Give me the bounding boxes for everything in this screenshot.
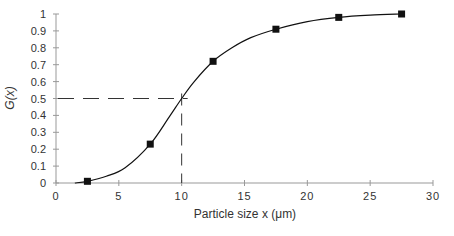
- y-tick-label: 0.9: [31, 25, 46, 37]
- x-tick-label: 0: [52, 190, 59, 202]
- y-axis-title: G(x): [3, 86, 17, 109]
- data-point-marker: [147, 141, 154, 148]
- plot-area: 05101520253000.10.20.30.40.50.60.70.80.9…: [31, 8, 440, 202]
- y-tick-label: 0.1: [31, 160, 46, 172]
- x-tick-label: 15: [237, 190, 251, 202]
- data-point-marker: [210, 58, 217, 65]
- y-tick-label: 0.6: [31, 76, 46, 88]
- cumulative-distribution-chart: 05101520253000.10.20.30.40.50.60.70.80.9…: [0, 0, 454, 236]
- x-tick-label: 20: [300, 190, 314, 202]
- y-tick-label: 0: [40, 177, 46, 189]
- y-tick-label: 1: [40, 8, 46, 20]
- x-axis-title: Particle size x (μm): [194, 207, 296, 221]
- data-point-marker: [84, 178, 91, 185]
- x-tick-label: 30: [426, 190, 440, 202]
- data-point-marker: [398, 11, 405, 18]
- y-tick-label: 0.8: [31, 42, 46, 54]
- data-point-marker: [335, 14, 342, 21]
- x-tick-label: 10: [175, 190, 189, 202]
- x-tick-label: 5: [115, 190, 122, 202]
- y-tick-label: 0.5: [31, 93, 46, 105]
- data-point-marker: [272, 26, 279, 33]
- y-tick-label: 0.3: [31, 126, 46, 138]
- y-tick-label: 0.4: [31, 109, 46, 121]
- y-tick-label: 0.2: [31, 143, 46, 155]
- x-tick-label: 25: [363, 190, 377, 202]
- y-tick-label: 0.7: [31, 59, 46, 71]
